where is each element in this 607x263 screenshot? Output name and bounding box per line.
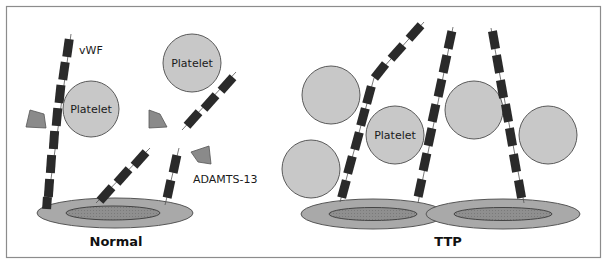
platelet-label: Platelet — [70, 103, 112, 116]
platelet-ttp — [445, 81, 503, 139]
platelet-ttp — [302, 66, 360, 124]
platelet-ttp — [282, 140, 340, 198]
platelet-normal-free: Platelet — [163, 34, 221, 92]
endothelial-cell-ttp-right — [426, 199, 580, 229]
vwf-label: vWF — [79, 44, 103, 57]
platelet-label: Platelet — [374, 129, 416, 142]
adamts13-label: ADAMTS-13 — [193, 173, 258, 186]
endothelial-cell-ttp-left — [301, 199, 445, 229]
endothelial-cell-normal — [37, 198, 193, 228]
platelet-label: Platelet — [171, 57, 213, 70]
panel-caption-ttp: TTP — [434, 234, 462, 249]
panel-caption-normal: Normal — [90, 234, 143, 249]
vwf-adamts13-diagram: vWF Platelet Platelet — [0, 0, 607, 263]
platelet-ttp — [519, 106, 577, 164]
platelet-normal-bound: Platelet — [63, 81, 119, 137]
platelet-ttp-labeled: Platelet — [366, 106, 424, 164]
